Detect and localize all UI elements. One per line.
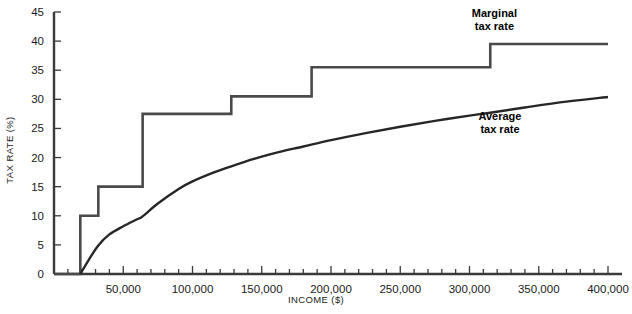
chart-canvas: 051015202530354045 50,000100,000150,0002… (0, 0, 632, 314)
series-labels: Marginaltax rateAveragetax rate (472, 7, 522, 135)
y-tick-label: 25 (31, 122, 44, 134)
y-axis-title: TAX RATE (%) (4, 116, 15, 183)
series-label-average-line2: tax rate (480, 123, 519, 135)
x-tick-label: 250,000 (379, 283, 421, 295)
y-axis-tick-labels: 051015202530354045 (31, 6, 44, 280)
series-label-marginal-line2: tax rate (475, 20, 514, 32)
data-series (54, 44, 608, 274)
series-line-average (80, 97, 608, 274)
y-tick-label: 30 (31, 93, 44, 105)
y-tick-label: 10 (31, 210, 44, 222)
x-axis-tick-labels: 50,000100,000150,000200,000250,000300,00… (106, 283, 629, 295)
y-tick-label: 5 (38, 239, 44, 251)
x-tick-label: 300,000 (449, 283, 491, 295)
x-tick-label: 150,000 (241, 283, 283, 295)
y-tick-label: 0 (38, 268, 44, 280)
series-line-marginal (54, 44, 608, 274)
y-tick-label: 35 (31, 64, 44, 76)
x-tick-label: 350,000 (518, 283, 560, 295)
series-label-average-line1: Average (478, 110, 521, 122)
y-tick-label: 40 (31, 35, 44, 47)
plot-area: 051015202530354045 50,000100,000150,0002… (31, 6, 629, 295)
series-label-marginal-line1: Marginal (472, 7, 517, 19)
y-tick-label: 20 (31, 152, 44, 164)
y-tick-label: 15 (31, 181, 44, 193)
x-tick-label: 400,000 (587, 283, 629, 295)
tax-rate-chart: 051015202530354045 50,000100,000150,0002… (0, 0, 632, 314)
x-axis-title: INCOME ($) (288, 294, 344, 305)
x-tick-label: 100,000 (172, 283, 214, 295)
y-tick-label: 45 (31, 6, 44, 18)
x-tick-label: 50,000 (106, 283, 141, 295)
